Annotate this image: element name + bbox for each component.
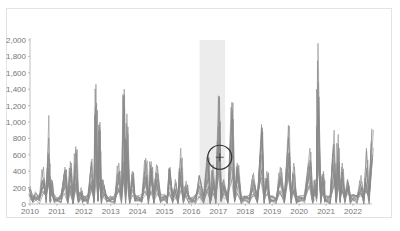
- y-tick-label: 2,000: [6, 36, 27, 45]
- x-tick-label: 2013: [102, 207, 120, 216]
- y-tick-label: 1,400: [6, 85, 27, 94]
- x-tick-label: 2018: [236, 207, 254, 216]
- x-tick-label: 2015: [156, 207, 174, 216]
- x-tick-label: 2020: [290, 207, 308, 216]
- y-tick-label: 1,600: [6, 69, 27, 78]
- line-chart: 02004006008001,0001,2001,4001,6001,8002,…: [0, 0, 400, 231]
- x-tick-label: 2019: [263, 207, 281, 216]
- y-tick-label: 600: [13, 151, 27, 160]
- x-tick-label: 2012: [75, 207, 93, 216]
- y-tick-label: 1,200: [6, 102, 27, 111]
- x-tick-label: 2022: [344, 207, 362, 216]
- x-tick-label: 2017: [210, 207, 228, 216]
- x-tick-label: 2011: [48, 207, 66, 216]
- y-tick-label: 400: [13, 167, 27, 176]
- y-tick-label: 1,800: [6, 52, 27, 61]
- x-tick-label: 2010: [21, 207, 39, 216]
- x-tick-label: 2016: [183, 207, 201, 216]
- x-tick-label: 2021: [317, 207, 335, 216]
- y-tick-label: 200: [13, 184, 27, 193]
- y-tick-label: 800: [13, 134, 27, 143]
- x-tick-label: 2014: [129, 207, 147, 216]
- y-tick-label: 1,000: [6, 118, 27, 127]
